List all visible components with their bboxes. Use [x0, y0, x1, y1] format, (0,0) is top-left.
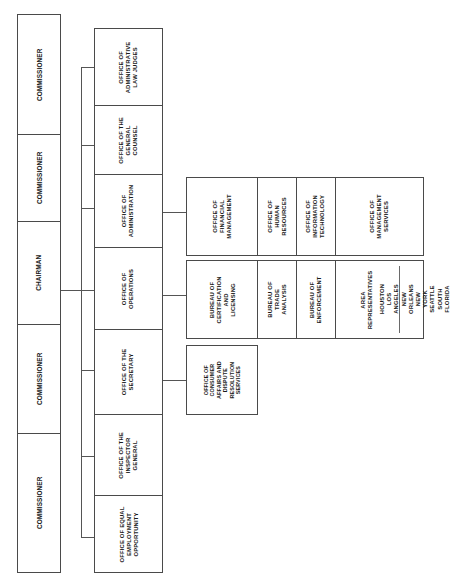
commission-member-label: COMMISSIONER — [35, 353, 43, 406]
office-box-equal-employment-opportunity: OFFICE OF EQUAL EMPLOYMENT OPPORTUNITY — [94, 495, 163, 573]
commission-member-box: COMMISSIONER — [17, 433, 61, 573]
connector-operations-to-units — [163, 295, 186, 296]
administration-unit-box-human-resources: OFFICE OF HUMAN RESOURCES — [257, 177, 297, 256]
connector-feeder — [81, 145, 94, 146]
office-label: OFFICE OF ADMINISTRATION — [122, 185, 136, 238]
office-label: OFFICE OF THE SECRETARY — [122, 349, 136, 396]
administration-unit-label: OFFICE OF INFORMATION TECHNOLOGY — [306, 195, 327, 238]
area-representatives-label: AREA REPRESENTATIVES — [360, 270, 374, 329]
connector-chairman-stub — [61, 290, 81, 291]
administration-unit-box-information-technology: OFFICE OF INFORMATION TECHNOLOGY — [296, 177, 336, 256]
office-box-operations: OFFICE OF OPERATIONS — [94, 247, 163, 330]
connector-feeder — [81, 537, 94, 538]
operations-unit-box-area-representatives: AREA REPRESENTATIVES HOUSTON LOS ANGELES… — [335, 260, 424, 339]
connector-feeder — [81, 290, 94, 291]
area-representatives-city-list: HOUSTON LOS ANGELES NEW ORLEANS NEW YORK… — [400, 261, 430, 338]
operations-unit-label: BUREAU OF ENFORCEMENT — [309, 276, 323, 323]
commission-member-box: COMMISSIONER — [17, 324, 61, 434]
office-label: OFFICE OF THE GENERAL COUNSEL — [118, 117, 139, 164]
office-box-inspector-general: OFFICE OF THE INSPECTOR GENERAL — [94, 414, 163, 496]
office-box-general-counsel: OFFICE OF THE GENERAL COUNSEL — [94, 105, 163, 175]
commission-chairman-box: CHAIRMAN — [17, 221, 61, 325]
connector-feeder — [81, 456, 94, 457]
administration-unit-box-financial-management: OFFICE OF FINANCIAL MANAGEMENT — [186, 177, 258, 256]
commission-member-label: COMMISSIONER — [35, 48, 43, 101]
connector-spine — [81, 67, 82, 537]
operations-unit-box-certification-and-licensing: BUREAU OF CERTIFICATION AND LICENSING — [186, 260, 258, 339]
connector-administration-to-units — [163, 212, 186, 213]
administration-unit-label: OFFICE OF MANAGEMENT SERVICES — [369, 194, 390, 238]
connector-feeder — [81, 67, 94, 68]
operations-unit-box-trade-analysis: BUREAU OF TRADE ANALYSIS — [257, 260, 297, 339]
operations-unit-label: BUREAU OF CERTIFICATION AND LICENSING — [208, 276, 236, 323]
operations-unit-label: BUREAU OF TRADE ANALYSIS — [267, 281, 288, 317]
office-label: OFFICE OF EQUAL EMPLOYMENT OPPORTUNITY — [118, 506, 139, 562]
administration-unit-label: OFFICE OF FINANCIAL MANAGEMENT — [212, 194, 233, 238]
area-representatives-cities-label: HOUSTON LOS ANGELES NEW ORLEANS NEW YORK… — [379, 284, 451, 314]
commission-member-box: COMMISSIONER — [17, 134, 61, 222]
secretary-unit-box-consumer-affairs: OFFICE OF CONSUMER AFFAIRS AND DISPUTE R… — [186, 345, 258, 415]
office-box-administration: OFFICE OF ADMINISTRATION — [94, 174, 163, 248]
office-label: OFFICE OF OPERATIONS — [122, 268, 136, 308]
office-label: OFFICE OF THE INSPECTOR GENERAL — [118, 432, 139, 479]
secretary-unit-label: OFFICE OF CONSUMER AFFAIRS AND DISPUTE R… — [203, 361, 241, 399]
commission-member-box: COMMISSIONER — [17, 14, 61, 135]
administration-unit-label: OFFICE OF HUMAN RESOURCES — [267, 197, 288, 236]
office-box-administrative-law-judges: OFFICE OF ADMINISTRATIVE LAW JUDGES — [94, 28, 163, 106]
commission-chairman-label: CHAIRMAN — [35, 255, 43, 291]
commission-member-label: COMMISSIONER — [35, 152, 43, 205]
office-label: OFFICE OF ADMINISTRATIVE LAW JUDGES — [118, 41, 139, 93]
office-box-secretary: OFFICE OF THE SECRETARY — [94, 329, 163, 415]
connector-feeder — [81, 370, 94, 371]
administration-unit-box-management-services: OFFICE OF MANAGEMENT SERVICES — [335, 177, 424, 256]
operations-unit-box-enforcement: BUREAU OF ENFORCEMENT — [296, 260, 336, 339]
connector-secretary-to-units — [163, 380, 186, 381]
connector-feeder — [81, 208, 94, 209]
commission-member-label: COMMISSIONER — [35, 477, 43, 530]
